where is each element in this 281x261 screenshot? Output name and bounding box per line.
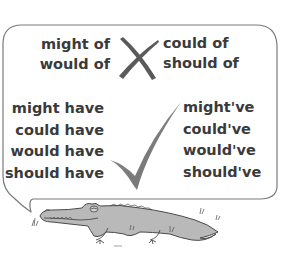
correct-form: would've <box>183 140 261 162</box>
correct-form: should have <box>4 163 104 185</box>
crocodile-illustration <box>30 198 230 248</box>
correct-forms-right: might've could've would've should've <box>183 97 261 183</box>
correct-form: could've <box>183 119 261 141</box>
incorrect-form: could of <box>163 33 239 53</box>
correct-form: might have <box>4 98 104 120</box>
correct-form: could have <box>4 120 104 142</box>
grammar-poster: might of would of could of should of mig… <box>0 0 281 261</box>
incorrect-form: should of <box>163 53 239 73</box>
correct-form: would have <box>4 141 104 163</box>
correct-forms-left: might have could have would have should … <box>4 98 104 184</box>
cross-mark-icon <box>116 36 160 82</box>
correct-form: should've <box>183 162 261 184</box>
incorrect-form: would of <box>30 54 110 74</box>
incorrect-form: might of <box>30 34 110 54</box>
incorrect-forms-left: might of would of <box>30 34 110 74</box>
check-mark-icon <box>108 100 183 192</box>
incorrect-forms-right: could of should of <box>163 33 239 73</box>
correct-form: might've <box>183 97 261 119</box>
